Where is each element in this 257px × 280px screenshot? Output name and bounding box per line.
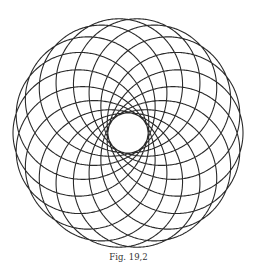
rosette-curve [13,19,243,247]
figure-caption: Fig. 19,2 [0,252,257,262]
rosette-figure [0,0,257,250]
